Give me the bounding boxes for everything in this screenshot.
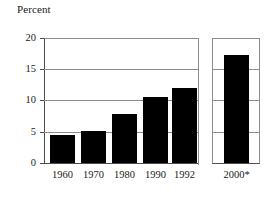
- x-tick-label-1992: 1992: [160, 170, 209, 181]
- y-tick-mark-0: [40, 163, 44, 164]
- y-tick-mark-20: [40, 38, 44, 39]
- y-tick-mark-10: [40, 100, 44, 101]
- y-tick-label-5: 5: [14, 127, 36, 138]
- plot-panel-observed-right-edge: [198, 38, 199, 165]
- y-tick-label-20: 20: [14, 33, 36, 44]
- bar-2000-projected: [224, 55, 249, 163]
- y-tick-label-10: 10: [14, 95, 36, 106]
- bar-1960: [50, 135, 75, 163]
- y-tick-mark-15: [40, 69, 44, 70]
- gridline-main-15: [44, 69, 199, 70]
- bar-1992: [172, 88, 197, 163]
- bar-1990: [143, 97, 168, 163]
- y-tick-label-0: 0: [14, 158, 36, 169]
- y-tick-mark-5: [40, 132, 44, 133]
- bar-chart-figure: Percent 20 15 10 5 0 1960 1970 1980 1990…: [0, 0, 272, 201]
- bar-1980: [112, 114, 137, 163]
- chart-title: Percent: [17, 3, 51, 15]
- y-tick-label-15: 15: [14, 64, 36, 75]
- bar-1970: [81, 131, 106, 163]
- x-tick-label-2000: 2000*: [212, 170, 261, 181]
